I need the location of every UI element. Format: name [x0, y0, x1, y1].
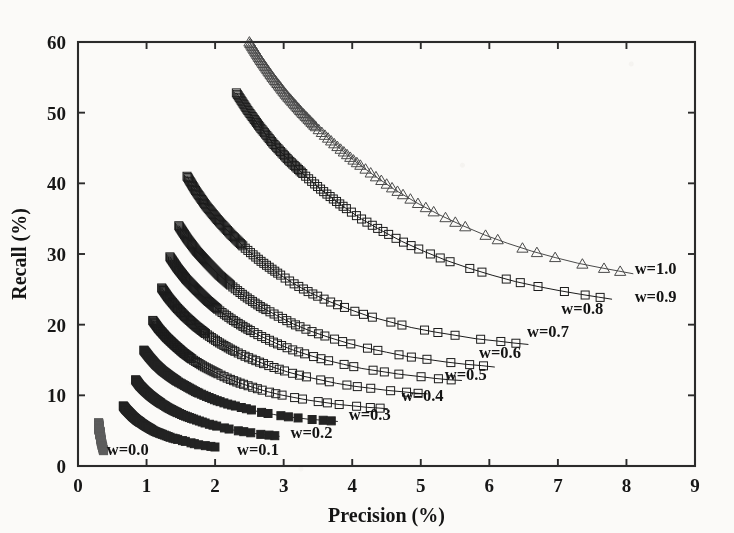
- series-label-w-0-2: w=0.2: [291, 423, 333, 442]
- data-point-marker: [294, 414, 302, 422]
- x-tick-label: 0: [73, 475, 83, 496]
- series-w-0-9: [232, 89, 612, 302]
- data-point-marker: [271, 432, 279, 440]
- series-label-w-0-1: w=0.1: [237, 440, 279, 459]
- chart-canvas: 01234567890102030405060 w=0.0w=0.1w=0.2w…: [0, 0, 734, 533]
- x-tick-label: 8: [622, 475, 632, 496]
- series-label-w-1-0: w=1.0: [635, 259, 677, 278]
- series-label-w-0-9: w=0.9: [635, 287, 677, 306]
- x-tick-label: 5: [416, 475, 426, 496]
- data-point-marker: [480, 230, 491, 239]
- data-point-marker: [213, 422, 221, 430]
- y-tick-label: 60: [47, 32, 66, 53]
- x-tick-label: 2: [210, 475, 220, 496]
- x-tick-label: 3: [279, 475, 289, 496]
- data-point-marker: [284, 413, 292, 421]
- series-w-1-0: [244, 37, 633, 276]
- curves-layer: [95, 37, 634, 455]
- y-tick-label: 50: [47, 103, 66, 124]
- precision-recall-figure: 01234567890102030405060 w=0.0w=0.1w=0.2w…: [0, 0, 734, 533]
- y-axis-title: Recall (%): [8, 208, 31, 300]
- series-label-w-0-8: w=0.8: [561, 299, 603, 318]
- data-point-marker: [264, 409, 272, 417]
- series-w-0-0: [95, 419, 108, 455]
- y-tick-label: 30: [47, 244, 66, 265]
- y-tick-label: 40: [47, 173, 66, 194]
- x-tick-label: 1: [142, 475, 152, 496]
- data-point-marker: [460, 221, 471, 230]
- data-point-marker: [247, 406, 255, 414]
- series-label-w-0-0: w=0.0: [107, 440, 149, 459]
- series-w-0-5: [158, 284, 428, 397]
- data-point-marker: [440, 212, 451, 221]
- x-tick-label: 9: [690, 475, 700, 496]
- data-point-marker: [257, 430, 265, 438]
- series-label-w-0-6: w=0.6: [479, 343, 521, 362]
- y-tick-label: 0: [57, 456, 67, 477]
- data-point-marker: [211, 443, 219, 451]
- y-tick-label: 20: [47, 315, 66, 336]
- data-point-marker: [277, 412, 285, 420]
- series-label-w-0-5: w=0.5: [445, 365, 487, 384]
- series-w-0-7: [175, 222, 495, 370]
- data-point-marker: [492, 234, 503, 243]
- series-label-w-0-7: w=0.7: [527, 322, 569, 341]
- data-point-marker: [247, 429, 255, 437]
- x-tick-label: 6: [485, 475, 495, 496]
- x-tick-label: 4: [347, 475, 357, 496]
- data-point-marker: [517, 243, 528, 252]
- series-w-0-4: [149, 316, 388, 412]
- y-tick-label: 10: [47, 385, 66, 406]
- series-label-w-0-4: w=0.4: [402, 386, 444, 405]
- x-tick-label: 7: [553, 475, 563, 496]
- series-label-w-0-3: w=0.3: [349, 405, 391, 424]
- x-axis-title: Precision (%): [328, 504, 445, 527]
- data-point-marker: [225, 425, 233, 433]
